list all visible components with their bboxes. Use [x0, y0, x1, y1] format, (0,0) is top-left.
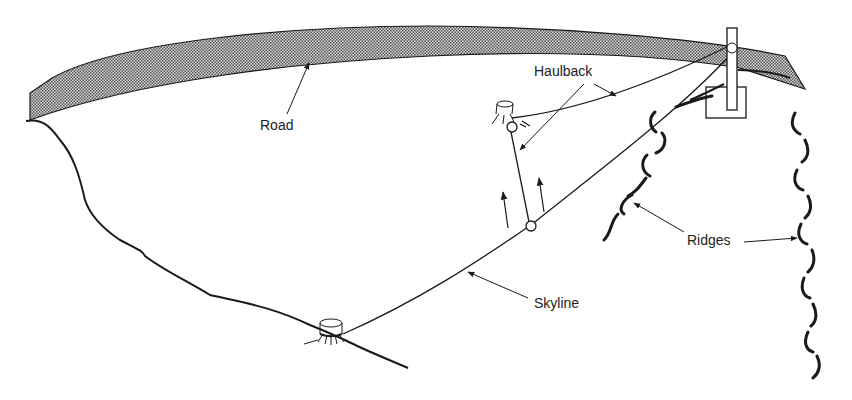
skyline-logging-diagram — [0, 0, 852, 400]
up-arrow-right — [539, 178, 544, 212]
ridge-left — [604, 96, 712, 240]
carriage-line — [511, 132, 529, 222]
skyline-label: Skyline — [534, 295, 579, 311]
skyline-cable — [343, 52, 733, 334]
up-arrow-left — [503, 192, 508, 228]
tail-stump-icon — [304, 319, 344, 345]
haulback-leader-2 — [594, 84, 616, 96]
spar-tower-icon — [690, 28, 790, 118]
carriage-icon — [526, 221, 536, 231]
ridges-leader-right — [744, 238, 797, 242]
ridge-right — [792, 113, 819, 378]
haulback-leader-1 — [520, 84, 584, 150]
road-leader — [287, 63, 309, 114]
ridges-leader-left — [634, 203, 684, 232]
ridges-label: Ridges — [687, 232, 731, 248]
road-band — [30, 26, 805, 120]
road-label: Road — [260, 117, 293, 133]
skyline-leader — [468, 272, 528, 298]
haulback-label: Haulback — [534, 63, 592, 79]
